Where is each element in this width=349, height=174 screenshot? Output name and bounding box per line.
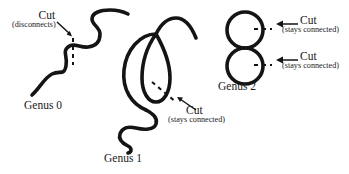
cut-genus1-sub: (stays connected) bbox=[168, 116, 225, 125]
cut-genus1-label: Cut (stays connected) bbox=[186, 104, 225, 125]
cut-disconnects-arrow bbox=[57, 22, 72, 37]
cut-genus2-top-label: Cut (stays connected) bbox=[300, 14, 339, 35]
genus2-label: Genus 2 bbox=[218, 80, 256, 92]
genus1-loop bbox=[142, 34, 170, 102]
genus1-label: Genus 1 bbox=[104, 152, 142, 164]
cut-disconnects-sub: (disconnects) bbox=[12, 21, 56, 30]
cut-genus2-bottom-label: Cut (stays connected) bbox=[300, 50, 339, 71]
genus0-label: Genus 0 bbox=[24, 99, 62, 111]
cut-genus2-bottom-sub: (stays connected) bbox=[282, 62, 339, 71]
cut-genus2-top-sub: (stays connected) bbox=[282, 26, 339, 35]
genus1-lower-tail bbox=[120, 110, 157, 153]
genus1-upper-tail bbox=[156, 18, 196, 38]
cut-disconnects-label: Cut (disconnects) bbox=[12, 9, 56, 30]
genus-cut-diagram: Cut (disconnects) Genus 0 Genus 1 Genus … bbox=[0, 0, 349, 174]
